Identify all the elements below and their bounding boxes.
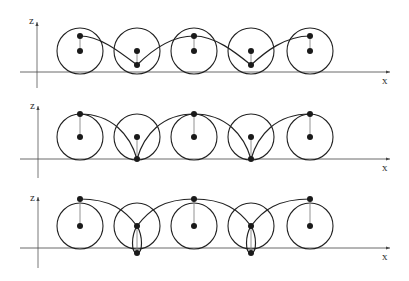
tracing-point-dot	[77, 111, 83, 117]
trochoid-diagram: z x z x	[0, 0, 409, 281]
x-axis-label: x	[382, 74, 388, 86]
x-axis-label: x	[382, 250, 388, 262]
wheel-center-dot	[191, 48, 197, 54]
wheel-center-dot	[134, 223, 140, 229]
z-axis-label: z	[30, 191, 35, 203]
wheel-center-dot	[248, 223, 254, 229]
tracing-point-dot	[191, 196, 197, 202]
tracing-point-dot	[134, 250, 140, 256]
tracing-point-dot	[248, 156, 254, 162]
tracing-point-dot	[191, 111, 197, 117]
tracing-point-dot	[77, 33, 83, 39]
panel-curtate: z x	[20, 14, 390, 88]
z-axis-label: z	[29, 14, 34, 26]
wheel-center-dot	[248, 48, 254, 54]
tracing-point-dot	[134, 156, 140, 162]
wheel-center-dot	[248, 134, 254, 140]
x-axis-label: x	[382, 161, 388, 173]
wheel-center-dot	[307, 48, 313, 54]
wheel-center-dot	[307, 223, 313, 229]
tracing-point-dot	[191, 33, 197, 39]
tracing-point-dot	[77, 196, 83, 202]
wheel-center-dot	[77, 48, 83, 54]
wheel-center-dot	[307, 134, 313, 140]
wheel-center-dot	[134, 134, 140, 140]
tracing-point-dot	[134, 62, 140, 68]
z-axis-label: z	[30, 99, 35, 111]
tracing-point-dot	[248, 62, 254, 68]
tracing-point-dot	[307, 196, 313, 202]
wheel-center-dot	[191, 134, 197, 140]
wheel-center-dot	[191, 223, 197, 229]
wheel-center-dot	[77, 134, 83, 140]
panel-prolate: z x	[20, 191, 390, 268]
wheel-center-dot	[77, 223, 83, 229]
tracing-point-dot	[307, 111, 313, 117]
tracing-point-dot	[248, 250, 254, 256]
panel-cycloid: z x	[20, 99, 390, 178]
tracing-point-dot	[307, 33, 313, 39]
wheel-center-dot	[134, 48, 140, 54]
